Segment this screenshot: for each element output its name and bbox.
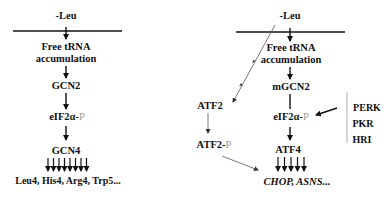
right-stimulus-label: -Leu (280, 11, 301, 22)
pathway-diagram: -Leu Free tRNA accumulation GCN2 eIF2α-P… (0, 0, 384, 198)
left-target-arrows (48, 158, 87, 171)
left-free-trna-label: Free tRNA (41, 42, 90, 53)
right-accumulation-label: accumulation (261, 55, 322, 66)
right-kinase-label: mGCN2 (272, 82, 309, 93)
phospho-mark: P (303, 111, 309, 122)
phospho-mark: P (79, 111, 85, 122)
left-eif2a-phospho-label: eIF2α-P (49, 112, 85, 123)
right-eif2a-phospho-label: eIF2α-P (273, 112, 309, 123)
right-target-arrows (278, 157, 304, 171)
left-targets-label: Leu4, His4, Arg4, Trp5... (15, 176, 120, 186)
right-tf-label: ATF4 (275, 145, 300, 156)
eif2a-text: eIF2α- (273, 111, 303, 122)
atf2-label: ATF2 (197, 101, 222, 112)
kinase-perk-label: PERK (353, 103, 381, 113)
right-free-trna-label: Free tRNA (266, 43, 315, 54)
kinase-hri-label: HRI (353, 135, 372, 145)
phospho-mark: P (226, 139, 232, 150)
other-kinases-arrow (316, 108, 337, 115)
atf2-phospho-label: ATF2-P (197, 140, 232, 151)
atf2-text: ATF2- (197, 139, 226, 150)
left-tf-label: GCN4 (52, 146, 81, 157)
left-stimulus-label: -Leu (56, 11, 77, 22)
eif2a-text: eIF2α- (49, 111, 79, 122)
kinase-pkr-label: PKR (352, 119, 373, 129)
left-accumulation-label: accumulation (36, 54, 97, 65)
atf2p-to-targets-arrow (222, 156, 258, 170)
right-targets-label: CHOP, ASNS... (264, 177, 331, 188)
diagram-arrows (0, 0, 384, 198)
left-kinase-label: GCN2 (52, 81, 81, 92)
